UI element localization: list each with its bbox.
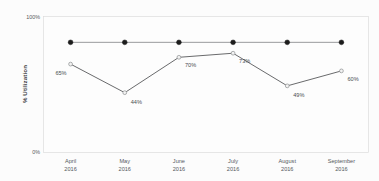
data-point-label: 60%	[347, 76, 358, 82]
data-point-marker	[285, 40, 290, 45]
data-point-marker	[177, 40, 182, 45]
x-axis-category-year: 2016	[64, 166, 76, 172]
x-axis-category-month: July	[228, 158, 238, 164]
y-axis-title: % Utilization	[21, 65, 28, 103]
utilization-line-chart: 100% 0% % Utilization 65%44%70%73%49%60%…	[0, 0, 379, 181]
chart-canvas: 100% 0% % Utilization 65%44%70%73%49%60%…	[0, 0, 379, 181]
data-point-marker	[285, 84, 289, 88]
data-point-marker	[177, 55, 181, 59]
data-point-label: 65%	[55, 70, 66, 76]
data-point-label: 44%	[131, 99, 142, 105]
data-point-marker	[123, 91, 127, 95]
data-point-label: 73%	[239, 58, 250, 64]
x-axis-category-month: May	[119, 158, 130, 164]
plot-area	[44, 17, 369, 153]
x-axis-category-year: 2016	[119, 166, 131, 172]
x-axis-category-month: April	[65, 158, 76, 164]
x-axis-category-year: 2016	[335, 166, 347, 172]
x-axis-category-month: June	[173, 158, 185, 164]
data-point-marker	[340, 69, 344, 73]
data-point-marker	[339, 40, 344, 45]
x-axis-category-year: 2016	[173, 166, 185, 172]
data-point-label: 70%	[185, 62, 196, 68]
data-point-label: 49%	[293, 92, 304, 98]
data-point-marker	[231, 51, 235, 55]
category-label-layer: April2016May2016June2016July2016August20…	[64, 158, 355, 172]
x-axis-category-year: 2016	[227, 166, 239, 172]
data-point-marker	[231, 40, 236, 45]
data-point-marker	[69, 62, 73, 66]
x-axis-category-year: 2016	[281, 166, 293, 172]
x-axis-category-month: August	[279, 158, 297, 164]
y-axis-tick-top: 100%	[26, 14, 40, 20]
y-axis-tick-bottom: 0%	[32, 149, 40, 155]
data-point-marker	[68, 40, 73, 45]
data-point-marker	[122, 40, 127, 45]
x-axis-category-month: September	[328, 158, 355, 164]
